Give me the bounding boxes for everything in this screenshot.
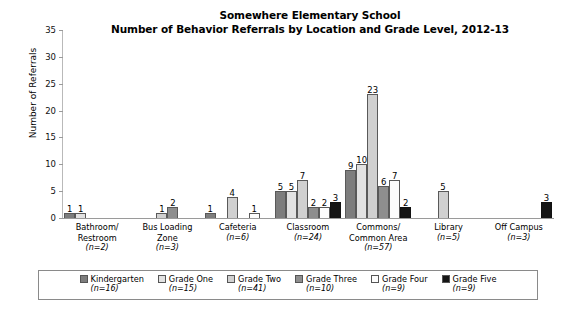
bar-group-bars: 3 (484, 30, 554, 218)
bar-slot: 23 (367, 30, 378, 218)
legend-sample-size: (n=15) (169, 284, 213, 294)
category-sample-size: (n=57) (335, 243, 421, 254)
bar[interactable]: 1 (249, 213, 260, 218)
bar-slot: 1 (156, 30, 167, 218)
legend-item[interactable]: Grade One(n=15) (158, 274, 213, 294)
bar[interactable]: 1 (75, 213, 86, 218)
bar-slot: 1 (64, 30, 75, 218)
bar-slot (449, 30, 460, 218)
bar-value-label: 1 (67, 204, 72, 214)
bar-slot: 7 (297, 30, 308, 218)
bar-chart: Somewhere Elementary School Number of Be… (0, 0, 574, 312)
bar-slot: 1 (205, 30, 216, 218)
y-axis-tick-label: 25 (30, 79, 56, 89)
bar-value-label: 5 (278, 182, 283, 192)
legend-item[interactable]: Grade Five(n=9) (442, 274, 497, 294)
bar[interactable]: 4 (227, 197, 238, 218)
bar-slot (238, 30, 249, 218)
bar[interactable]: 5 (286, 191, 297, 218)
bar-value-label: 2 (170, 198, 175, 208)
bar-group-bars: 91023672 (343, 30, 413, 218)
chart-legend: Kindergarten(n=16)Grade One(n=15)Grade T… (38, 270, 538, 300)
bar-group: 557223 (273, 30, 343, 218)
bar-group: 5 (413, 30, 483, 218)
bar[interactable]: 5 (438, 191, 449, 218)
legend-item[interactable]: Kindergarten(n=16) (80, 274, 144, 294)
y-axis-tick-mark (59, 218, 63, 219)
bar-value-label: 10 (356, 155, 367, 165)
bar[interactable]: 7 (297, 180, 308, 218)
bar-slot (119, 30, 130, 218)
y-axis-tick-label: 15 (30, 132, 56, 142)
bar-slot: 3 (330, 30, 341, 218)
bar-slot (471, 30, 482, 218)
y-axis-tick-label: 20 (30, 106, 56, 116)
bar-slot (134, 30, 145, 218)
bar-slot (416, 30, 427, 218)
bar[interactable]: 1 (205, 213, 216, 218)
y-axis-tick-label: 0 (30, 213, 56, 223)
legend-sample-size: (n=10) (306, 284, 357, 294)
bar[interactable]: 2 (400, 207, 411, 218)
legend-label: Grade Four(n=9) (382, 274, 428, 294)
bar-slot: 2 (400, 30, 411, 218)
legend-label: Grade Five(n=9) (453, 274, 497, 294)
bar-slot: 7 (389, 30, 400, 218)
bar-group-bars: 5 (413, 30, 483, 218)
bar[interactable]: 2 (167, 207, 178, 218)
bar-value-label: 7 (300, 171, 305, 181)
bar-value-label: 23 (367, 85, 378, 95)
category-sample-size: (n=3) (124, 243, 210, 254)
bar[interactable]: 2 (319, 207, 330, 218)
bar-slot: 2 (167, 30, 178, 218)
bar-slot: 10 (356, 30, 367, 218)
legend-item[interactable]: Grade Two(n=41) (227, 274, 281, 294)
bar[interactable]: 10 (356, 164, 367, 218)
category-sample-size: (n=3) (476, 233, 562, 244)
bar-slot (178, 30, 189, 218)
category-label-line1: Off Campus (476, 222, 562, 233)
bar-value-label: 1 (159, 204, 164, 214)
bar-value-label: 5 (440, 182, 445, 192)
legend-sample-size: (n=9) (453, 284, 497, 294)
legend-label: Grade Two(n=41) (238, 274, 281, 294)
legend-sample-size: (n=16) (91, 284, 144, 294)
legend-swatch-icon (227, 275, 235, 283)
bar-slot (145, 30, 156, 218)
bar[interactable]: 3 (541, 202, 552, 218)
bar-slot (427, 30, 438, 218)
bar-slot (519, 30, 530, 218)
legend-label: Grade One(n=15) (169, 274, 213, 294)
bar-value-label: 1 (251, 204, 256, 214)
plot-area: 11121415572239102367253 (62, 30, 554, 218)
bar-slot: 5 (438, 30, 449, 218)
legend-item[interactable]: Grade Four(n=9) (371, 274, 428, 294)
bar-slot: 6 (378, 30, 389, 218)
legend-swatch-icon (158, 275, 166, 283)
bar[interactable]: 9 (345, 170, 356, 218)
legend-label: Grade Three(n=10) (306, 274, 357, 294)
bar[interactable]: 1 (156, 213, 167, 218)
bar-slot (86, 30, 97, 218)
bar-value-label: 2 (322, 198, 327, 208)
bar-value-label: 4 (229, 188, 234, 198)
bar[interactable]: 7 (389, 180, 400, 218)
bar[interactable]: 23 (367, 94, 378, 218)
x-axis-line (62, 218, 554, 219)
bar[interactable]: 6 (378, 186, 389, 218)
bar-group: 141 (203, 30, 273, 218)
bar-group: 12 (132, 30, 202, 218)
bar-slot: 2 (319, 30, 330, 218)
legend-item[interactable]: Grade Three(n=10) (295, 274, 357, 294)
bar[interactable]: 2 (308, 207, 319, 218)
bar-slot (108, 30, 119, 218)
bar-group: 11 (62, 30, 132, 218)
bar-slot: 5 (275, 30, 286, 218)
bar[interactable]: 1 (64, 213, 75, 218)
bar[interactable]: 5 (275, 191, 286, 218)
bar-slot (97, 30, 108, 218)
bar-slot (460, 30, 471, 218)
bar[interactable]: 3 (330, 202, 341, 218)
bar-group-bars: 12 (132, 30, 202, 218)
bar-value-label: 3 (333, 193, 338, 203)
